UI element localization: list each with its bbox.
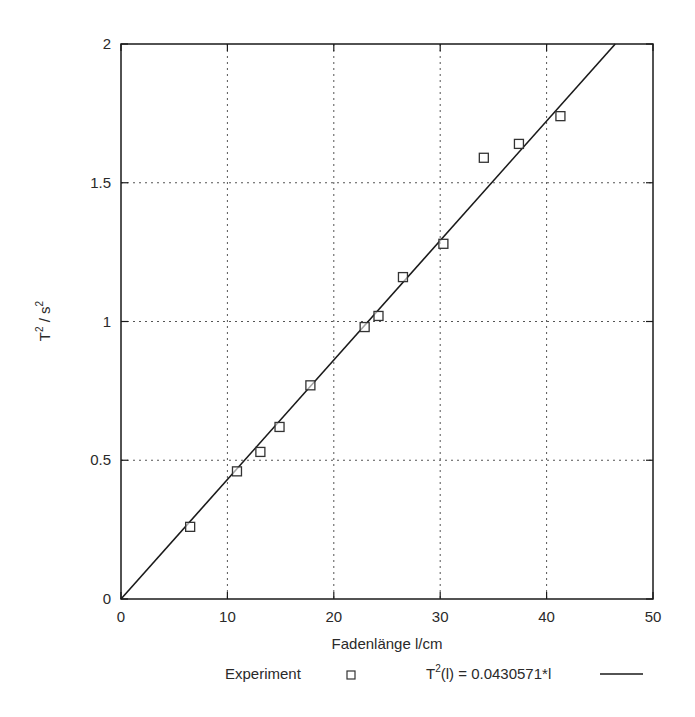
y-tick-label: 2 xyxy=(103,35,111,52)
y-tick-label: 1 xyxy=(103,313,111,330)
x-tick-label: 0 xyxy=(117,608,125,625)
x-tick-label: 40 xyxy=(538,608,555,625)
x-tick-label: 20 xyxy=(325,608,342,625)
data-point-square-icon xyxy=(398,273,407,282)
data-point-square-icon xyxy=(232,467,241,476)
data-point-square-icon xyxy=(514,139,523,148)
data-point-square-icon xyxy=(306,381,315,390)
data-point-square-icon xyxy=(439,239,448,248)
data-point-square-icon xyxy=(374,311,383,320)
data-point-square-icon xyxy=(360,323,369,332)
svg-text:T2 / s2: T2 / s2 xyxy=(34,300,53,341)
gridlines xyxy=(121,44,653,599)
legend-experiment-label: Experiment xyxy=(225,665,302,682)
y-axis-label: T2 / s2 xyxy=(34,300,53,341)
y-tick-label: 1.5 xyxy=(90,174,111,191)
x-tick-label: 10 xyxy=(219,608,236,625)
legend: Experiment T2(l) = 0.0430571*l xyxy=(225,663,643,682)
legend-square-marker-icon xyxy=(347,671,355,679)
chart-canvas: 0102030405000.511.52 Fadenlänge l/cm T2 … xyxy=(0,0,695,717)
y-tick-label: 0 xyxy=(103,590,111,607)
x-axis-label: Fadenlänge l/cm xyxy=(332,635,443,652)
data-point-square-icon xyxy=(556,112,565,121)
data-point-square-icon xyxy=(256,447,265,456)
legend-fit-label: T2(l) = 0.0430571*l xyxy=(426,663,551,682)
data-point-square-icon xyxy=(275,422,284,431)
data-point-square-icon xyxy=(479,153,488,162)
y-tick-label: 0.5 xyxy=(90,451,111,468)
data-point-square-icon xyxy=(186,522,195,531)
x-tick-label: 50 xyxy=(645,608,662,625)
x-tick-label: 30 xyxy=(432,608,449,625)
